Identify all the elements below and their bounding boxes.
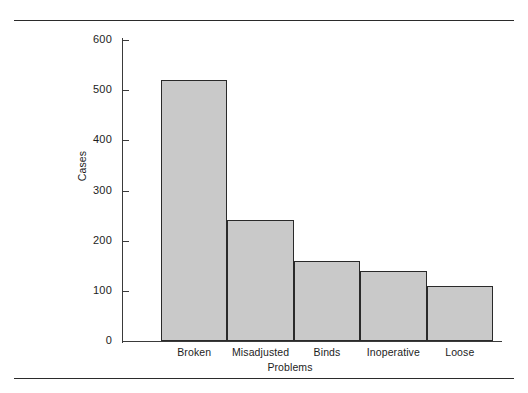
x-axis-line: [122, 341, 502, 342]
y-tick-400: [122, 140, 129, 141]
y-tick-100: [122, 291, 129, 292]
bar-column: [161, 40, 227, 341]
bar-column: [294, 40, 360, 341]
y-tick-label: 500: [72, 84, 112, 95]
bottom-divider-rule: [14, 378, 514, 379]
y-tick-label: 0: [72, 335, 112, 346]
y-tick-0: [122, 341, 129, 342]
bar-binds[interactable]: [294, 261, 360, 341]
y-tick-500: [122, 90, 129, 91]
y-tick-600: [122, 40, 129, 41]
y-tick-300: [122, 191, 129, 192]
x-category-label: Inoperative: [360, 346, 426, 358]
bar-series: [161, 40, 493, 341]
x-category-label: Binds: [294, 346, 360, 358]
x-category-label: Broken: [161, 346, 227, 358]
bar-inoperative[interactable]: [360, 271, 426, 341]
x-category-label: Misadjusted: [227, 346, 293, 358]
x-category-label: Loose: [427, 346, 493, 358]
bar-broken[interactable]: [161, 80, 227, 341]
bar-column: [360, 40, 426, 341]
y-tick-label: 100: [72, 285, 112, 296]
bar-column: [227, 40, 293, 341]
y-tick-label: 200: [72, 235, 112, 246]
y-axis-title: Cases: [76, 136, 88, 196]
y-tick-label: 600: [72, 34, 112, 45]
bar-misadjusted[interactable]: [227, 220, 293, 341]
bar-loose[interactable]: [427, 286, 493, 341]
x-axis-title: Problems: [0, 361, 528, 373]
pareto-bar-chart: 0100200300400500600 BrokenMisadjustedBin…: [0, 0, 528, 393]
y-tick-200: [122, 241, 129, 242]
x-axis-title-text: Problems: [267, 361, 312, 373]
bar-column: [427, 40, 493, 341]
